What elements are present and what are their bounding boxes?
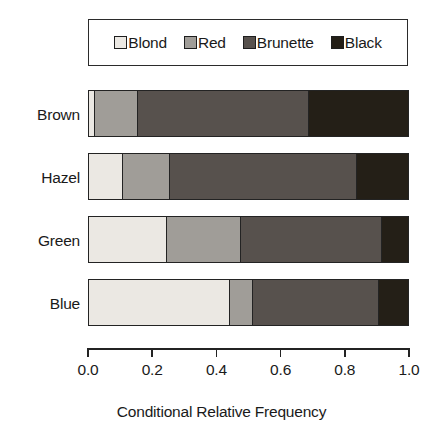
bar-segment-black xyxy=(382,217,408,262)
legend-swatch-black-icon xyxy=(331,36,344,49)
legend-item-list: Blond Red Brunette Black xyxy=(114,35,381,51)
x-axis-tick xyxy=(87,348,89,357)
category-label-hazel: Hazel xyxy=(4,170,80,186)
category-label-blue: Blue xyxy=(4,296,80,312)
category-label-green: Green xyxy=(4,233,80,249)
x-axis-tick xyxy=(151,348,153,357)
table-row xyxy=(88,90,409,137)
x-axis-tick-label: 0.4 xyxy=(193,362,239,378)
x-axis-tick-label: 0.2 xyxy=(129,362,175,378)
legend-item-black: Black xyxy=(331,35,382,51)
bar-segment-brunette xyxy=(138,91,309,136)
table-row xyxy=(88,279,409,326)
category-axis-labels: Brown Hazel Green Blue xyxy=(0,90,80,339)
plot-area xyxy=(88,90,409,339)
legend-item-red: Red xyxy=(184,35,226,51)
legend-item-brunette: Brunette xyxy=(243,35,314,51)
bar-segment-brunette xyxy=(253,280,379,325)
legend-swatch-blond-icon xyxy=(114,36,127,49)
bar-segment-black xyxy=(379,280,408,325)
bar-segment-blond xyxy=(89,217,167,262)
bar-segment-brunette xyxy=(170,154,357,199)
x-axis-tick xyxy=(408,348,410,357)
x-axis-title: Conditional Relative Frequency xyxy=(0,404,443,420)
legend-swatch-brunette-icon xyxy=(243,36,256,49)
category-label-brown: Brown xyxy=(4,107,80,123)
x-axis-tick-label: 1.0 xyxy=(386,362,432,378)
table-row xyxy=(88,216,409,263)
legend-label-blond: Blond xyxy=(128,35,167,51)
x-axis-line xyxy=(88,348,409,350)
legend-label-brunette: Brunette xyxy=(257,35,314,51)
x-axis-tick-label: 0.6 xyxy=(258,362,304,378)
bar-segment-black xyxy=(309,91,408,136)
legend-item-blond: Blond xyxy=(114,35,167,51)
bar-segment-brunette xyxy=(241,217,383,262)
bar-segment-red xyxy=(230,280,253,325)
x-axis-tick-label: 0.8 xyxy=(322,362,368,378)
bar-segment-red xyxy=(123,154,171,199)
legend-label-red: Red xyxy=(198,35,226,51)
x-axis-tick xyxy=(280,348,282,357)
x-axis-tick-label: 0.0 xyxy=(65,362,111,378)
legend-swatch-red-icon xyxy=(184,36,197,49)
chart-legend: Blond Red Brunette Black xyxy=(88,19,408,66)
bar-segment-black xyxy=(357,154,408,199)
x-axis-tick xyxy=(344,348,346,357)
stacked-bar-chart: Blond Red Brunette Black Brown Hazel Gre… xyxy=(0,0,443,444)
x-axis: 0.00.20.40.60.81.0 xyxy=(88,348,409,349)
legend-label-black: Black xyxy=(345,35,382,51)
table-row xyxy=(88,153,409,200)
bar-segment-blond xyxy=(89,280,230,325)
bar-segment-red xyxy=(167,217,240,262)
x-axis-tick xyxy=(216,348,218,357)
bar-segment-blond xyxy=(89,154,123,199)
bar-segment-red xyxy=(95,91,138,136)
